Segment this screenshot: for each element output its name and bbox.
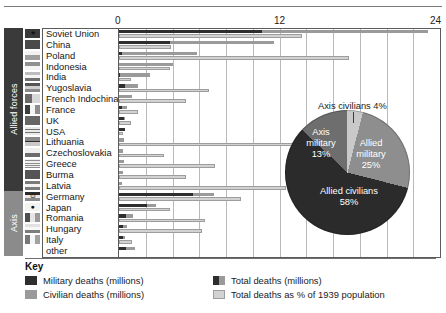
category-label: Poland bbox=[43, 51, 119, 62]
flag-icon bbox=[24, 39, 41, 50]
bar-percent-of-population bbox=[119, 240, 132, 244]
bar-civilian-deaths bbox=[119, 171, 122, 174]
flag-icon bbox=[24, 180, 41, 191]
bar-percent-of-population bbox=[119, 67, 170, 71]
legend-label: Civilian deaths (millions) bbox=[43, 289, 144, 300]
bar-percent-of-population bbox=[119, 229, 202, 233]
flag-icon bbox=[24, 61, 41, 72]
bar-row bbox=[119, 29, 440, 40]
legend-label: Military deaths (millions) bbox=[43, 275, 144, 286]
bar-row bbox=[119, 51, 440, 62]
category-label: UK bbox=[43, 116, 119, 127]
bar-civilian-deaths bbox=[126, 247, 135, 250]
flag-icon bbox=[24, 147, 41, 158]
legend: Key Military deaths (millions)Total deat… bbox=[25, 261, 425, 275]
group-band-allied: Allied forces bbox=[4, 28, 23, 191]
bar-row bbox=[119, 62, 440, 73]
flag-emblem-icon: ★ bbox=[25, 28, 40, 39]
bar-row bbox=[119, 246, 440, 257]
bar-percent-of-population bbox=[119, 89, 209, 93]
flag-icon bbox=[24, 234, 41, 245]
legend-title: Key bbox=[25, 261, 425, 273]
bar-civilian-deaths bbox=[119, 95, 132, 98]
flag-icon bbox=[24, 169, 41, 180]
bar-row bbox=[119, 40, 440, 51]
flag-icon bbox=[24, 245, 41, 256]
bar-percent-of-population bbox=[119, 154, 164, 158]
flag-icon bbox=[24, 223, 41, 234]
flag-icon bbox=[24, 82, 41, 93]
bar-percent-of-population bbox=[119, 56, 349, 60]
pie-label-allied-military: Allied military 25% bbox=[337, 138, 405, 171]
bar-percent-of-population bbox=[119, 110, 138, 114]
flag-icon: ★ bbox=[24, 28, 41, 39]
bar-percent-of-population bbox=[119, 186, 286, 190]
bar-civilian-deaths bbox=[125, 84, 138, 87]
pie-label-axis-military: Axis military 13% bbox=[297, 127, 345, 160]
flag-icon bbox=[24, 104, 41, 115]
pie-callout-leader-line bbox=[353, 112, 354, 123]
bar-civilian-deaths bbox=[126, 214, 133, 217]
flag-icon bbox=[24, 136, 41, 147]
bar-civilian-deaths bbox=[119, 160, 124, 163]
category-label: other bbox=[43, 246, 119, 257]
bar-percent-of-population bbox=[119, 143, 312, 147]
flag-emblem-icon: ● bbox=[25, 202, 40, 213]
bar-percent-of-population bbox=[119, 219, 205, 223]
flag-emblem-icon: ⊙ bbox=[25, 191, 40, 202]
x-axis-tick-labels: 0 12 24 bbox=[0, 14, 446, 27]
top-rule bbox=[4, 6, 442, 7]
bar-civilian-deaths bbox=[119, 149, 123, 152]
axis-tick-12: 12 bbox=[274, 14, 285, 27]
bar-percent-of-population bbox=[119, 121, 131, 125]
flag-icon bbox=[24, 126, 41, 137]
legend-swatch bbox=[25, 276, 37, 285]
category-label: Germany bbox=[43, 192, 119, 203]
bar-row bbox=[119, 94, 440, 105]
pie-label-allied-civilians: Allied civilians 58% bbox=[303, 186, 395, 208]
flag-icon: ⊙ bbox=[24, 191, 41, 202]
bar-percent-of-population bbox=[119, 45, 171, 49]
legend-swatch bbox=[213, 290, 225, 299]
bar-military-deaths bbox=[119, 30, 262, 33]
bar-percent-of-population bbox=[119, 164, 215, 168]
category-label-column: Soviet UnionChinaPolandIndonesiaIndiaYug… bbox=[42, 28, 119, 258]
legend-item: Total deaths (millions) bbox=[213, 275, 322, 287]
bar-civilian-deaths bbox=[147, 204, 156, 207]
bar-percent-of-population bbox=[119, 208, 170, 212]
group-band-axis-label: Axis bbox=[9, 215, 19, 233]
legend-label: Total deaths (millions) bbox=[231, 275, 322, 286]
flag-icon bbox=[24, 50, 41, 61]
bar-percent-of-population bbox=[119, 78, 131, 82]
legend-swatch bbox=[25, 290, 37, 299]
key-separator bbox=[25, 258, 436, 259]
bar-civilian-deaths bbox=[170, 41, 274, 44]
bar-military-deaths bbox=[119, 247, 126, 250]
bar-civilian-deaths bbox=[120, 73, 149, 76]
bar-military-deaths bbox=[119, 41, 170, 44]
bar-percent-of-population bbox=[119, 99, 186, 103]
flag-icon bbox=[24, 71, 41, 82]
bar-civilian-deaths bbox=[193, 193, 214, 196]
bar-percent-of-population bbox=[119, 197, 241, 201]
bar-civilian-deaths bbox=[122, 52, 197, 55]
group-band-allied-label: Allied forces bbox=[9, 84, 19, 136]
flag-column: ★⊙● bbox=[24, 28, 41, 258]
flag-icon bbox=[24, 212, 41, 223]
axis-tick-24: 24 bbox=[430, 14, 441, 27]
flag-icon: ● bbox=[24, 202, 41, 213]
bar-row bbox=[119, 83, 440, 94]
axis-tick-0: 0 bbox=[115, 14, 121, 27]
bar-civilian-deaths bbox=[123, 225, 127, 228]
bar-civilian-deaths bbox=[123, 236, 125, 239]
legend-item: Total deaths as % of 1939 population bbox=[213, 289, 385, 301]
bar-row bbox=[119, 235, 440, 246]
bar-civilian-deaths bbox=[122, 106, 127, 109]
flag-icon bbox=[24, 158, 41, 169]
flag-icon bbox=[24, 93, 41, 104]
bar-civilian-deaths bbox=[119, 182, 122, 185]
bar-military-deaths bbox=[119, 204, 147, 207]
legend-item: Civilian deaths (millions) bbox=[25, 289, 144, 301]
bar-civilian-deaths bbox=[262, 30, 428, 33]
bar-percent-of-population bbox=[119, 175, 186, 179]
